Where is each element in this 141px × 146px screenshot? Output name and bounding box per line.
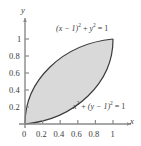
origin-tick-label: 0 <box>22 130 26 139</box>
lower-eq-plus: + <box>79 102 88 111</box>
y-tick-label-0.2: 0.2 <box>9 103 20 112</box>
y-axis-label: y <box>21 6 25 15</box>
y-tick-label-0.4: 0.4 <box>9 86 20 95</box>
x-tick-label-1: 1 <box>111 130 115 139</box>
x-tick-label-0.2: 0.2 <box>36 130 47 139</box>
lower-curve-equation-label: x2 + (y − 1)2 = 1 <box>73 103 125 111</box>
figure-container: x y 0 0.2 0.4 0.6 0.8 1 0.2 0.4 0.6 0.8 … <box>0 0 141 146</box>
x-axis-label: x <box>130 117 134 126</box>
lower-eq-term-b: (y − 1) <box>88 102 110 111</box>
upper-eq-rhs: = 1 <box>96 24 109 33</box>
upper-curve-equation-label: (x − 1)2 + y2 = 1 <box>56 25 108 33</box>
x-tick-label-0.8: 0.8 <box>89 130 100 139</box>
x-tick-label-0.6: 0.6 <box>71 130 82 139</box>
x-tick-label-0.4: 0.4 <box>54 130 65 139</box>
y-tick-label-0.6: 0.6 <box>9 69 20 78</box>
y-axis-arrow <box>23 18 27 22</box>
y-tick-label-0.8: 0.8 <box>9 52 20 61</box>
upper-eq-term-a: (x − 1) <box>56 24 78 33</box>
upper-eq-plus: + <box>81 24 90 33</box>
lower-eq-rhs: = 1 <box>113 102 126 111</box>
y-tick-label-1: 1 <box>17 35 21 44</box>
plot-canvas <box>0 0 141 146</box>
